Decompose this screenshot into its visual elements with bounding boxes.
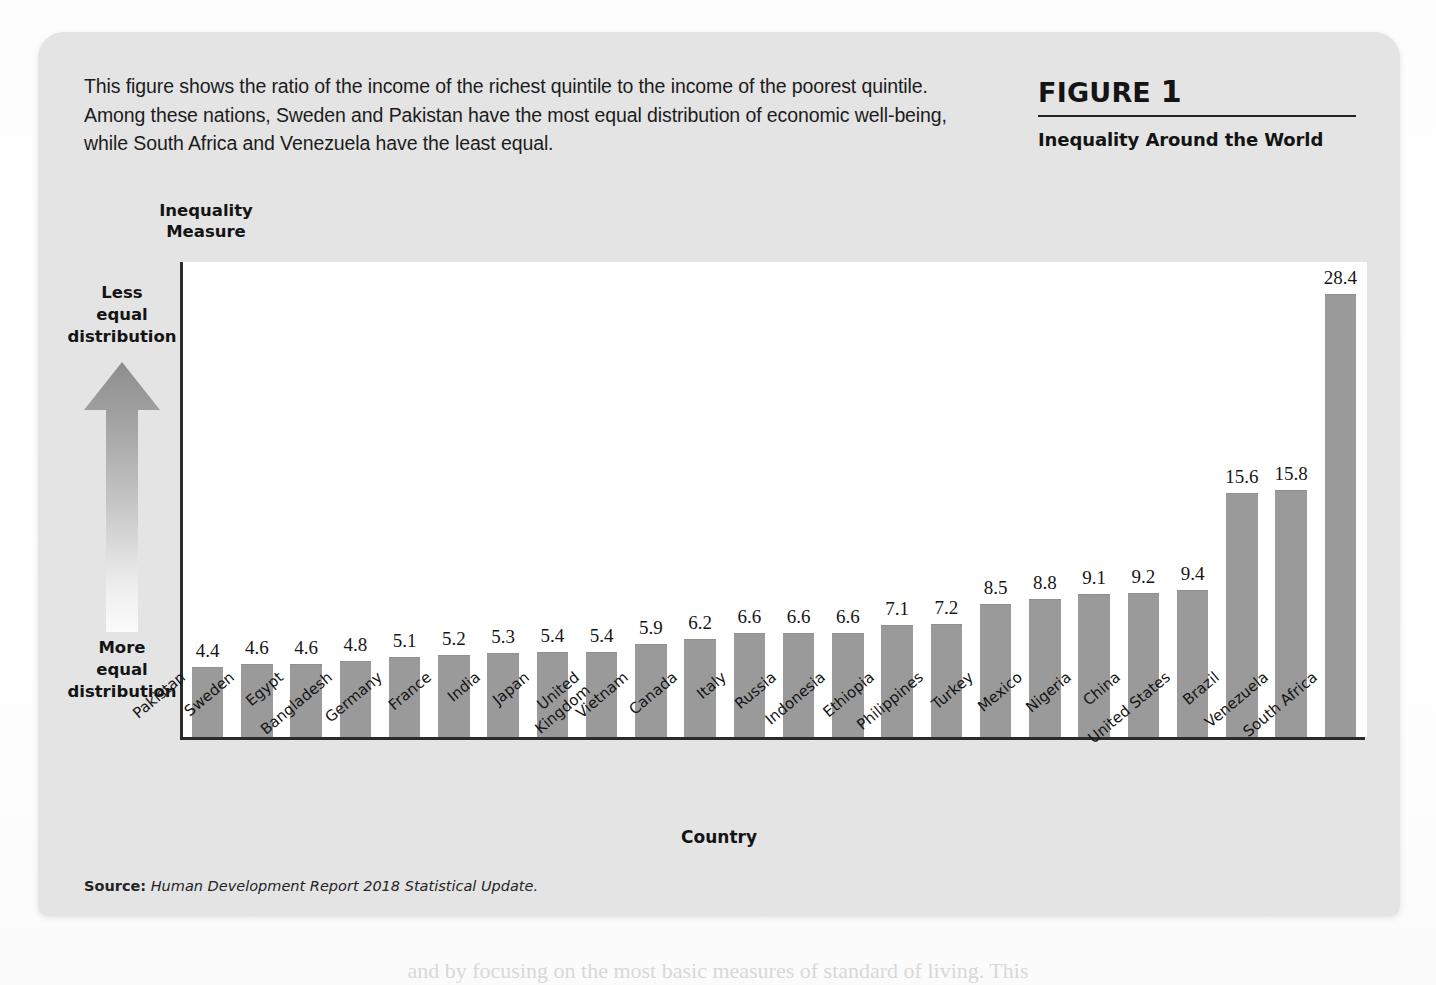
bar-value-label: 5.2 — [442, 628, 466, 650]
country-label-slot: Philippines — [922, 742, 971, 838]
country-label-slot: Venezuela — [1267, 742, 1316, 838]
bar-value-label: 7.2 — [935, 597, 959, 619]
country-label-slot: Nigeria — [1070, 742, 1119, 838]
country-label-slot: Italy — [725, 742, 774, 838]
figure-divider — [1038, 115, 1356, 117]
country-label-slot: Japan — [528, 742, 577, 838]
figure-label: FIGURE 1 — [1038, 74, 1358, 109]
x-axis-tick-labels: PakistanSwedenEgyptBangladeshGermanyFran… — [183, 742, 1365, 838]
bar-value-label: 6.2 — [688, 612, 712, 634]
bar-slot: 5.4 — [577, 262, 626, 737]
bar-slot: 5.1 — [380, 262, 429, 737]
country-label-slot: Vietnam — [626, 742, 675, 838]
bar-slot: 28.4 — [1316, 262, 1365, 737]
country-label-slot: United Kingdom — [577, 742, 626, 838]
x-axis-title-text: Country — [681, 827, 757, 847]
bar-value-label: 9.1 — [1082, 567, 1106, 589]
country-label-slot: Pakistan — [183, 742, 232, 838]
bar-slot: 9.4 — [1168, 262, 1217, 737]
country-label-slot: China — [1119, 742, 1168, 838]
figure-card: This figure shows the ratio of the incom… — [38, 32, 1400, 916]
bar-slot: 6.6 — [823, 262, 872, 737]
bar-slot: 6.6 — [725, 262, 774, 737]
bar-slot: 6.2 — [676, 262, 725, 737]
country-label-slot: Sweden — [232, 742, 281, 838]
figure-subtitle: Inequality Around the World — [1038, 129, 1358, 150]
country-label-slot: France — [429, 742, 478, 838]
bar-value-label: 4.6 — [294, 637, 318, 659]
page-background: This figure shows the ratio of the incom… — [0, 0, 1436, 985]
source-text: Human Development Report 2018 Statistica… — [151, 878, 538, 894]
x-axis-title: Country — [38, 827, 1400, 847]
bar-slot: 15.8 — [1267, 262, 1316, 737]
bar-slot: 8.8 — [1020, 262, 1069, 737]
bar-slot: 8.5 — [971, 262, 1020, 737]
page-text-bleed: and by focusing on the most basic measur… — [0, 958, 1436, 985]
figure-label-word: FIGURE — [1038, 77, 1151, 108]
country-label-slot: Canada — [676, 742, 725, 838]
bar-value-label: 4.4 — [196, 640, 220, 662]
bar-value-label: 4.8 — [344, 634, 368, 656]
country-label-slot: Turkey — [971, 742, 1020, 838]
country-label-slot: Indonesia — [823, 742, 872, 838]
bar-value-label: 6.6 — [787, 606, 811, 628]
bar-value-label: 5.1 — [393, 630, 417, 652]
bar-slot: 5.4 — [528, 262, 577, 737]
bar-value-label: 5.4 — [541, 625, 565, 647]
bar-value-label: 6.6 — [738, 606, 762, 628]
bar-slot: 7.2 — [922, 262, 971, 737]
bar-slot: 4.4 — [183, 262, 232, 737]
country-label-slot: South Africa — [1316, 742, 1365, 838]
country-label-slot: Russia — [774, 742, 823, 838]
up-arrow-gradient-icon — [84, 362, 160, 632]
country-label-slot: Egypt — [282, 742, 331, 838]
y-axis-title-text: Inequality Measure — [159, 201, 253, 241]
country-label-slot: Mexico — [1020, 742, 1069, 838]
bar-slot: 5.9 — [626, 262, 675, 737]
country-label-slot: Brazil — [1217, 742, 1266, 838]
bar-value-label: 8.8 — [1033, 572, 1057, 594]
bar-slot: 4.8 — [331, 262, 380, 737]
y-axis-title: Inequality Measure — [142, 200, 270, 242]
bar-slot: 5.3 — [479, 262, 528, 737]
bar-value-label: 6.6 — [836, 606, 860, 628]
bar-value-label: 15.6 — [1225, 466, 1258, 488]
bar-value-label: 8.5 — [984, 577, 1008, 599]
bar-value-label: 7.1 — [885, 598, 909, 620]
bar-value-label: 4.6 — [245, 637, 269, 659]
bar-slot: 9.1 — [1070, 262, 1119, 737]
bar-slot: 9.2 — [1119, 262, 1168, 737]
bar-value-label: 15.8 — [1275, 463, 1308, 485]
country-label-slot: Bangladesh — [331, 742, 380, 838]
bar-slot: 15.6 — [1217, 262, 1266, 737]
bar-value-label: 5.4 — [590, 625, 614, 647]
bar-series: 4.44.64.64.85.15.25.35.45.45.96.26.66.66… — [183, 262, 1365, 737]
bar-slot: 4.6 — [232, 262, 281, 737]
country-label-slot: Ethiopia — [873, 742, 922, 838]
figure-intro-text: This figure shows the ratio of the incom… — [84, 72, 974, 158]
bar-slot: 6.6 — [774, 262, 823, 737]
bar-value-label: 9.4 — [1181, 563, 1205, 585]
bar-slot: 5.2 — [429, 262, 478, 737]
bar-value-label: 5.3 — [491, 626, 515, 648]
bar-value-label: 9.2 — [1132, 566, 1156, 588]
less-equal-annotation: Less equal distribution — [58, 282, 186, 348]
bar-slot: 4.6 — [282, 262, 331, 737]
country-label-slot: United States — [1168, 742, 1217, 838]
figure-label-number: 1 — [1161, 74, 1182, 109]
bar-slot: 7.1 — [873, 262, 922, 737]
bar — [1325, 294, 1357, 737]
source-label: Source: — [84, 878, 146, 894]
country-label-slot: Germany — [380, 742, 429, 838]
source-note: Source: Human Development Report 2018 St… — [84, 878, 538, 894]
bar-value-label: 28.4 — [1324, 267, 1357, 289]
bar-value-label: 5.9 — [639, 617, 663, 639]
figure-header: FIGURE 1 Inequality Around the World — [1038, 74, 1358, 150]
